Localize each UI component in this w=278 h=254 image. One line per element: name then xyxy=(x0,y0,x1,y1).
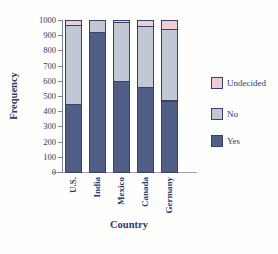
y-tick-label: 800 xyxy=(18,45,56,55)
legend-item-undecided: Undecided xyxy=(211,77,266,89)
bar-segment-undecided-germany xyxy=(161,20,178,30)
legend-item-yes: Yes xyxy=(211,135,240,147)
bar-segment-undecided-mexico xyxy=(113,20,130,23)
bar-segment-yes-germany xyxy=(161,101,178,173)
y-tick-mark xyxy=(58,111,62,112)
y-tick-mark xyxy=(58,96,62,97)
stacked-bar-chart-figure: Frequency 010020030040050060070080090010… xyxy=(0,0,278,254)
y-tick-mark xyxy=(58,50,62,51)
x-tick-label-us: U.S. xyxy=(68,177,79,193)
bar-segment-undecided-canada xyxy=(137,20,154,27)
legend-label-undecided: Undecided xyxy=(227,78,266,88)
y-axis-title: Frequency xyxy=(8,72,19,120)
y-tick-label: 200 xyxy=(18,137,56,147)
y-tick-label: 700 xyxy=(18,61,56,71)
y-tick-mark xyxy=(58,66,62,67)
legend-item-no: No xyxy=(211,108,238,120)
bar-segment-no-canada xyxy=(137,26,154,88)
bar-segment-yes-us xyxy=(65,104,82,173)
bar-segment-no-us xyxy=(65,25,82,105)
x-tick-label-india: India xyxy=(92,177,103,198)
legend-swatch-undecided xyxy=(211,77,223,89)
bar-segment-yes-canada xyxy=(137,87,154,173)
y-tick-mark xyxy=(58,172,62,173)
y-tick-label: 500 xyxy=(18,91,56,101)
legend-label-yes: Yes xyxy=(227,136,240,146)
y-tick-mark xyxy=(58,35,62,36)
bar-segment-no-germany xyxy=(161,29,178,101)
bar-segment-undecided-us xyxy=(65,20,82,26)
y-tick-label: 600 xyxy=(18,76,56,86)
x-tick-label-mexico: Mexico xyxy=(116,177,127,205)
y-tick-label: 1000 xyxy=(18,15,56,25)
x-tick-label-canada: Canada xyxy=(140,177,151,207)
legend-label-no: No xyxy=(227,109,238,119)
y-tick-label: 900 xyxy=(18,30,56,40)
y-tick-mark xyxy=(58,126,62,127)
y-tick-label: 300 xyxy=(18,121,56,131)
y-tick-label: 400 xyxy=(18,106,56,116)
x-axis-title: Country xyxy=(62,219,196,230)
y-tick-mark xyxy=(58,81,62,82)
y-axis-line xyxy=(62,20,63,173)
bar-segment-no-mexico xyxy=(113,22,130,82)
y-tick-mark xyxy=(58,142,62,143)
bar-segment-no-india xyxy=(89,20,106,33)
y-tick-label: 0 xyxy=(18,167,56,177)
y-tick-label: 100 xyxy=(18,152,56,162)
y-tick-mark xyxy=(58,20,62,21)
legend-swatch-no xyxy=(211,108,223,120)
y-tick-mark xyxy=(58,157,62,158)
bar-segment-yes-mexico xyxy=(113,81,130,173)
bar-segment-yes-india xyxy=(89,32,106,173)
x-tick-label-germany: Germany xyxy=(164,177,175,214)
legend-swatch-yes xyxy=(211,135,223,147)
